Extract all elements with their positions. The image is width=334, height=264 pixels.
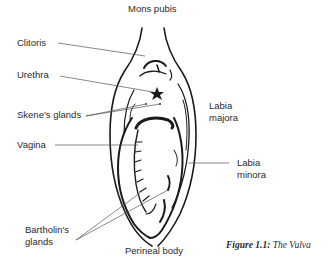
label-vagina: Vagina bbox=[17, 139, 46, 151]
urethra-star-icon bbox=[150, 87, 164, 100]
label-perineal-body: Perineal body bbox=[125, 245, 183, 257]
label-clitoris: Clitoris bbox=[17, 37, 46, 49]
label-skenes-glands: Skene's glands bbox=[17, 109, 81, 121]
label-mons-pubis: Mons pubis bbox=[128, 3, 177, 15]
label-bartholins-glands: Bartholin's glands bbox=[25, 224, 69, 248]
label-urethra: Urethra bbox=[17, 69, 49, 81]
label-labia-majora: Labia majora bbox=[209, 100, 238, 124]
caption-title: The Vulva bbox=[273, 240, 311, 250]
caption-prefix: Figure 1.1: bbox=[226, 240, 270, 250]
figure-caption: Figure 1.1: The Vulva bbox=[226, 240, 311, 250]
vulva-diagram: Mons pubis Clitoris Urethra Skene's glan… bbox=[0, 0, 334, 264]
label-labia-minora: Labia minora bbox=[237, 157, 266, 181]
